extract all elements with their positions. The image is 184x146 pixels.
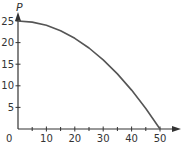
y-tick-label: 15: [1, 59, 14, 70]
axes: [15, 12, 181, 132]
y-axis-label: P: [16, 1, 23, 14]
origin-label: 0: [6, 133, 12, 144]
x-tick-label: 50: [154, 133, 167, 144]
x-axis-arrow-icon: [172, 126, 181, 132]
y-tick-label: 5: [8, 102, 14, 113]
curve-line: [18, 21, 160, 129]
x-tick-label: 20: [68, 133, 81, 144]
ticks: [16, 21, 161, 132]
y-tick-label: 10: [1, 80, 14, 91]
tick-labels: 1020304050510152025: [1, 16, 166, 145]
y-tick-label: 20: [1, 37, 14, 48]
chart: 1020304050510152025 P 0: [0, 0, 184, 146]
y-tick-label: 25: [1, 16, 14, 27]
x-tick-label: 30: [97, 133, 110, 144]
x-tick-label: 10: [40, 133, 53, 144]
x-tick-label: 40: [125, 133, 138, 144]
